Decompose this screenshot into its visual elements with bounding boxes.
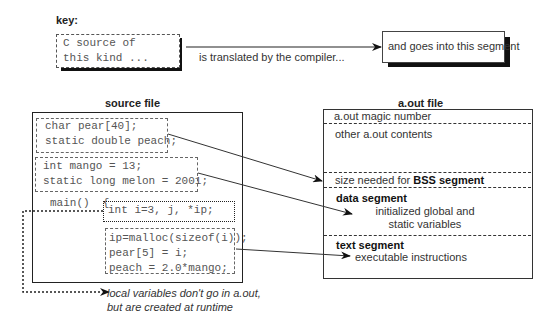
aout-file-title: a.out file: [398, 97, 443, 109]
translated-label: is translated by the compiler...: [199, 51, 345, 63]
divider: [324, 123, 531, 124]
text-segment-title: text segment: [336, 239, 404, 251]
data-segment-description: initialized global andstatic variables: [360, 205, 490, 231]
key-label: key:: [56, 14, 78, 26]
executable-code: ip=malloc(sizeof(i));pear[5] = i;peach =…: [109, 231, 248, 276]
segment-key-label: and goes into this segment: [388, 40, 519, 52]
divider: [324, 172, 531, 173]
initialized-decl-code: int mango = 13;static long melon = 2001;: [43, 159, 208, 189]
text-segment-description: executable instructions: [355, 251, 467, 263]
magic-number-segment: a.out magic number: [334, 110, 431, 122]
global-decl-code: char pear[40];static double peach;: [45, 119, 177, 149]
main-function-line: main() {: [50, 196, 109, 211]
key-source-text: C source ofthis kind ...: [63, 36, 149, 66]
other-contents-segment: other a.out contents: [335, 128, 432, 140]
local-vars-code: int i=3, j, *ip;: [108, 203, 214, 218]
data-segment-title: data segment: [336, 192, 407, 204]
local-variables-note: local variables don't go in a.out,but ar…: [107, 286, 261, 314]
divider: [324, 235, 531, 236]
source-file-title: source file: [105, 97, 160, 109]
bss-segment: size needed for BSS segment: [335, 174, 484, 186]
divider: [324, 187, 531, 188]
